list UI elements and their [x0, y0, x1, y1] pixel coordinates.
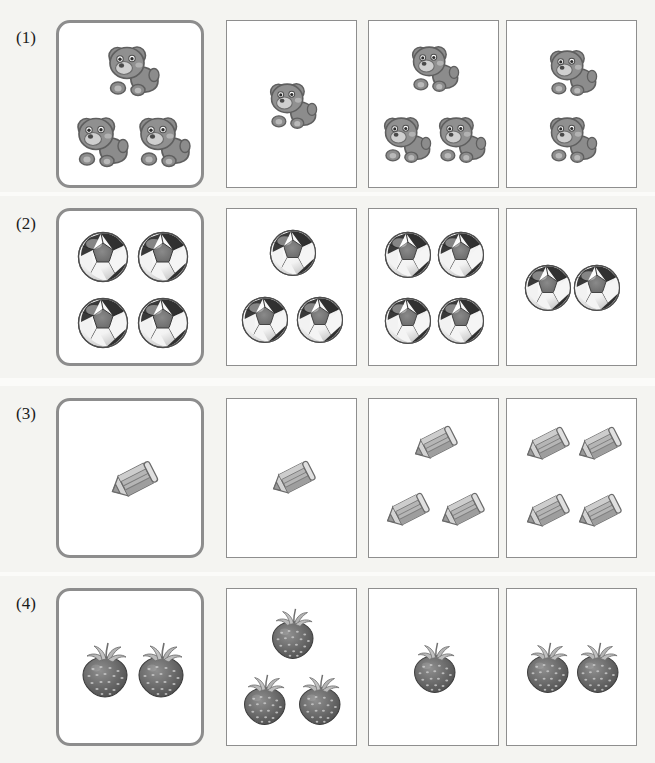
soccer-ball-icon: [137, 231, 189, 283]
reference-card-row-2[interactable]: [56, 208, 204, 366]
option-card-row-4-choice-2[interactable]: [368, 588, 499, 746]
pencil-icon: [406, 423, 463, 465]
soccer-ball-icon: [384, 297, 432, 345]
worksheet-page: (1): [0, 0, 655, 763]
option-card-row-1-choice-2[interactable]: [368, 20, 499, 188]
item-group: [369, 209, 498, 365]
soccer-ball-icon: [77, 297, 129, 349]
item-group: [227, 209, 356, 365]
option-card-row-1-choice-1[interactable]: [226, 20, 357, 188]
bear-icon: [104, 43, 162, 97]
soccer-ball-icon: [241, 296, 289, 344]
item-group: [227, 399, 356, 557]
item-group: [369, 399, 498, 557]
option-card-row-2-choice-1[interactable]: [226, 208, 357, 366]
strawberry-icon: [294, 673, 346, 726]
item-group: [507, 21, 636, 187]
soccer-ball-icon: [137, 297, 189, 349]
item-group: [227, 589, 356, 745]
option-card-row-3-choice-1[interactable]: [226, 398, 357, 558]
pencil-icon: [570, 424, 627, 466]
bear-icon: [408, 43, 461, 93]
soccer-ball-icon: [296, 296, 344, 344]
item-group: [59, 591, 201, 743]
pencil-icon: [433, 490, 490, 532]
item-group: [59, 23, 201, 185]
item-group: [507, 399, 636, 557]
option-card-row-1-choice-3[interactable]: [506, 20, 637, 188]
option-card-row-4-choice-3[interactable]: [506, 588, 637, 746]
strawberry-icon: [409, 641, 461, 694]
strawberry-icon: [522, 641, 574, 694]
item-group: [59, 401, 201, 555]
reference-card-row-4[interactable]: [56, 588, 204, 746]
pencil-icon: [264, 458, 321, 500]
row-label-1: (1): [16, 28, 36, 48]
item-group: [369, 21, 498, 187]
soccer-ball-icon: [269, 229, 317, 277]
option-card-row-3-choice-3[interactable]: [506, 398, 637, 558]
pencil-icon: [570, 491, 627, 533]
reference-card-row-3[interactable]: [56, 398, 204, 558]
item-group: [227, 21, 356, 187]
soccer-ball-icon: [573, 264, 621, 312]
soccer-ball-icon: [384, 231, 432, 279]
bear-icon: [73, 114, 131, 168]
pencil-icon: [378, 490, 435, 532]
strawberry-icon: [133, 641, 189, 699]
soccer-ball-icon: [524, 264, 572, 312]
item-group: [507, 209, 636, 365]
option-card-row-2-choice-2[interactable]: [368, 208, 499, 366]
bear-icon: [135, 114, 193, 168]
pencil-icon: [518, 424, 575, 466]
bear-icon: [380, 114, 433, 164]
option-card-row-4-choice-1[interactable]: [226, 588, 357, 746]
strawberry-icon: [267, 607, 319, 660]
row-label-3: (3): [16, 404, 36, 424]
pencil-icon: [518, 491, 575, 533]
soccer-ball-icon: [437, 297, 485, 345]
strawberry-icon: [77, 641, 133, 699]
strawberry-icon: [239, 673, 291, 726]
item-group: [369, 589, 498, 745]
item-group: [59, 211, 201, 363]
bear-icon: [435, 114, 488, 164]
soccer-ball-icon: [437, 231, 485, 279]
item-group: [507, 589, 636, 745]
pencil-icon: [102, 458, 164, 504]
bear-icon: [546, 47, 599, 97]
row-label-4: (4): [16, 594, 36, 614]
reference-card-row-1[interactable]: [56, 20, 204, 188]
strawberry-icon: [572, 641, 624, 694]
row-label-2: (2): [16, 214, 36, 234]
option-card-row-2-choice-3[interactable]: [506, 208, 637, 366]
option-card-row-3-choice-2[interactable]: [368, 398, 499, 558]
soccer-ball-icon: [77, 231, 129, 283]
bear-icon: [546, 114, 599, 164]
bear-icon: [266, 80, 319, 130]
